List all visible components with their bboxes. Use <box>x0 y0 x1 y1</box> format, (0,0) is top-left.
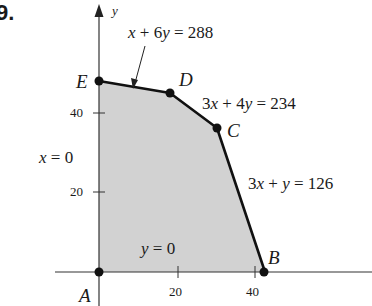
vertex-c-point <box>213 124 222 133</box>
vertex-a-point <box>95 268 104 277</box>
vertex-d-point <box>166 89 175 98</box>
label-pointer-line <box>135 46 145 83</box>
problem-number: 9. <box>0 2 14 24</box>
x-tick-label-20: 20 <box>169 285 182 298</box>
constraint-cb-label: 3x + y = 126 <box>248 175 333 192</box>
vertex-d-label: D <box>179 70 193 89</box>
y-axis-arrow-icon <box>95 4 104 17</box>
y-tick-label-20: 20 <box>70 185 83 198</box>
vertex-b-label: B <box>268 248 280 267</box>
feasible-region-diagram: 9. y 40 20 20 40 A B C D E x + 6y = 288 … <box>0 0 372 306</box>
vertex-b-point <box>260 268 269 277</box>
constraint-ed-label: x + 6y = 288 <box>128 24 213 41</box>
y-tick-label-40: 40 <box>70 106 83 119</box>
y-axis-label: y <box>112 4 118 17</box>
constraint-left-label: x = 0 <box>39 149 73 166</box>
constraint-bottom-label: y = 0 <box>141 240 175 257</box>
vertex-c-label: C <box>227 121 240 140</box>
x-tick-label-40: 40 <box>246 285 259 298</box>
vertex-a-label: A <box>79 286 91 305</box>
vertex-e-point <box>95 77 104 86</box>
constraint-dc-label: 3x + 4y = 234 <box>202 95 296 112</box>
vertex-e-label: E <box>76 72 88 91</box>
